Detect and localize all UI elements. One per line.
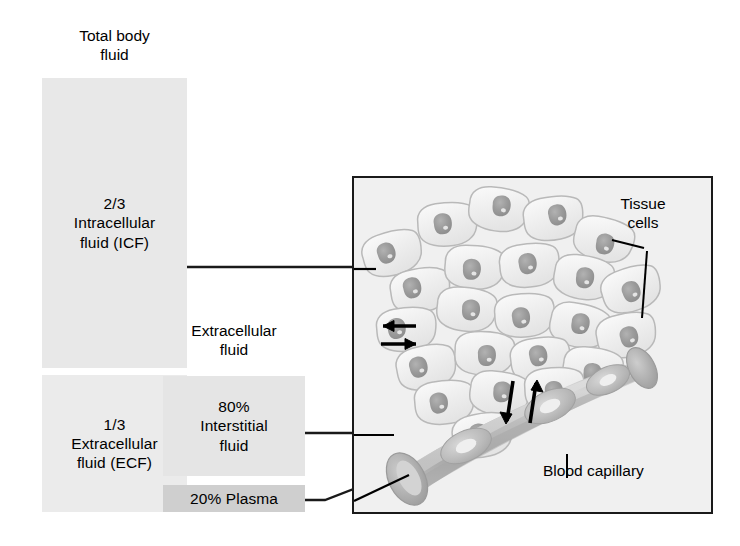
extracellular-fluid-caption: Extracellular fluid [163, 321, 305, 359]
tissue-cell [454, 331, 515, 377]
tissue-illustration-panel: Tissue cells Blood capillary [352, 176, 713, 514]
bar-label-plasma: 20% Plasma [190, 489, 278, 508]
total-body-fluid-caption: Total body fluid [42, 26, 187, 64]
bar-plasma: 20% Plasma [163, 485, 305, 512]
label-blood-capillary: Blood capillary [543, 461, 701, 480]
tissue-cell [443, 244, 506, 292]
bar-interstitial-fluid: 80% Interstitial fluid [163, 376, 305, 476]
label-tissue-cells: Tissue cells [587, 194, 699, 232]
bar-label-intracellular-fluid: 2/3 Intracellular fluid (ICF) [74, 194, 155, 252]
fluid-compartments-figure: Total body fluid 2/3 Intracellular fluid… [0, 0, 740, 546]
bar-label-interstitial-fluid: 80% Interstitial fluid [200, 397, 268, 455]
bar-label-extracellular-fluid: 1/3 Extracellular fluid (ECF) [71, 415, 158, 473]
